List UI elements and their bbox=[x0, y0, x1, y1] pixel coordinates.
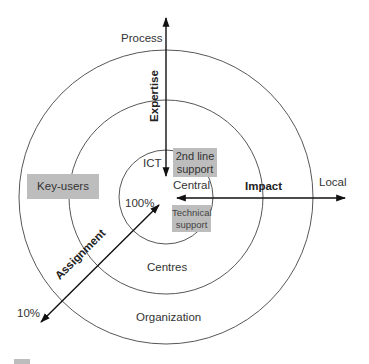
second-line-line1: 2nd line bbox=[173, 150, 217, 163]
ict-label: ICT bbox=[143, 158, 162, 170]
legend-swatch bbox=[14, 359, 30, 364]
assignment-arrow bbox=[41, 205, 159, 322]
central-label: Central bbox=[173, 180, 210, 192]
centres-label: Centres bbox=[147, 262, 187, 274]
impact-label: Impact bbox=[245, 181, 282, 193]
second-line-line2: support bbox=[173, 163, 217, 176]
technical-line1: Technical bbox=[172, 207, 211, 219]
organization-label: Organization bbox=[136, 312, 201, 324]
local-label: Local bbox=[319, 177, 347, 189]
assignment-label: Assignment bbox=[53, 227, 108, 282]
expertise-label: Expertise bbox=[148, 70, 160, 122]
key-users-box: Key-users bbox=[27, 174, 99, 199]
technical-line2: support bbox=[172, 219, 211, 231]
technical-support-box: Technical support bbox=[172, 205, 211, 232]
process-label: Process bbox=[121, 33, 163, 45]
assignment-10-label: 10% bbox=[17, 308, 40, 320]
assignment-100-label: 100% bbox=[125, 198, 154, 210]
second-line-support-box: 2nd line support bbox=[173, 148, 217, 177]
